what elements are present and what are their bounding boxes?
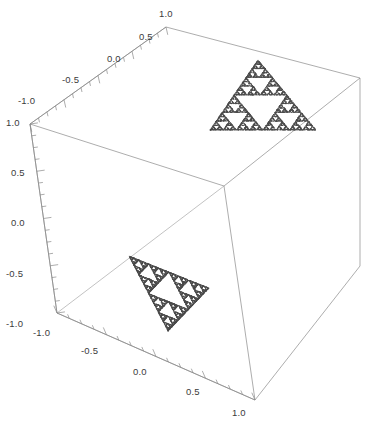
z_axis-tick-label: 0.0 <box>11 217 25 228</box>
y_axis-tick-label: -1.0 <box>18 95 35 106</box>
y-tick-minor <box>39 118 40 122</box>
y-tick-minor <box>56 106 57 110</box>
y-tick-minor <box>81 88 82 92</box>
y-axis-ticks <box>30 27 168 132</box>
z-tick-minor <box>52 277 56 278</box>
z-tick-minor <box>47 242 51 243</box>
3d-sierpinski-plot <box>0 0 376 429</box>
bounding-box-frame <box>30 27 360 400</box>
y_axis-tick-label: 0.0 <box>107 53 121 64</box>
z-axis <box>30 123 65 313</box>
y-tick-minor <box>141 45 142 49</box>
z-tick-major <box>37 170 45 171</box>
x_axis-tick-label: 0.0 <box>133 366 147 377</box>
y_axis-tick-label: 0.5 <box>139 31 153 42</box>
z-tick-minor <box>42 206 46 207</box>
x_axis-tick-label: 0.5 <box>186 386 200 397</box>
z-tick-minor <box>45 230 49 231</box>
z-tick-minor <box>54 289 58 290</box>
z-tick-minor <box>38 182 42 183</box>
y-tick-major <box>132 51 134 59</box>
x_axis-tick-label: 1.0 <box>232 407 246 418</box>
sierpinski-lower <box>129 256 209 332</box>
z_axis-tick-label: -1.0 <box>6 318 23 329</box>
z-tick-minor <box>49 253 53 254</box>
y-tick-minor <box>107 69 108 73</box>
sierpinski-upper <box>210 60 316 130</box>
z-tick-minor <box>35 159 39 160</box>
y-tick-minor <box>90 82 91 86</box>
z-tick-major <box>44 217 52 218</box>
z-axis-ticks <box>30 123 65 313</box>
y-tick-minor <box>73 94 74 98</box>
y_axis-tick-label: -0.5 <box>62 74 79 85</box>
y-axis <box>30 27 168 132</box>
y-tick-major <box>64 100 66 108</box>
z-tick-minor <box>40 194 44 195</box>
y-tick-minor <box>158 33 159 37</box>
x_axis-tick-label: -0.5 <box>81 345 98 356</box>
z_axis-tick-label: 1.0 <box>6 117 20 128</box>
z-tick-minor <box>32 135 36 136</box>
y-tick-major <box>98 76 100 84</box>
z-tick-major <box>50 265 58 266</box>
z_axis-tick-label: -0.5 <box>6 268 23 279</box>
z-tick-minor <box>33 147 37 148</box>
z_axis-tick-label: 0.5 <box>11 167 25 178</box>
y-tick-minor <box>115 63 116 67</box>
y_axis-tick-label: 1.0 <box>159 8 173 19</box>
box-edge-front-vertical <box>224 186 255 400</box>
y-tick-minor <box>124 57 125 61</box>
box-top-face <box>30 27 360 186</box>
z-tick-minor <box>55 301 59 302</box>
x_axis-tick-label: -1.0 <box>33 327 50 338</box>
y-tick-minor <box>47 112 48 116</box>
plot-canvas: -1.0-0.50.00.51.01.00.50.0-0.5-1.0-1.0-0… <box>0 0 376 429</box>
y-tick-major <box>166 27 168 35</box>
box-bottom-rear-left <box>57 186 224 313</box>
